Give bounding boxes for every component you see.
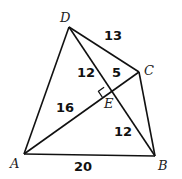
length-label-dc: 13 — [104, 28, 122, 43]
vertex-label-b: B — [157, 158, 168, 173]
segment-ab — [24, 154, 155, 156]
geometry-diagram: D C A B E 13 12 5 16 12 20 — [0, 0, 182, 179]
vertex-label-d: D — [59, 10, 71, 25]
length-label-eb: 12 — [114, 124, 132, 139]
length-label-de: 12 — [77, 65, 95, 80]
vertex-label-a: A — [9, 156, 19, 171]
segment-da — [24, 27, 69, 154]
length-label-ae: 16 — [56, 100, 74, 115]
length-label-ab: 20 — [74, 159, 92, 174]
length-label-ec: 5 — [112, 65, 121, 80]
diagonal-ac — [24, 72, 139, 154]
vertex-label-c: C — [144, 63, 154, 78]
vertex-label-e: E — [103, 96, 114, 111]
